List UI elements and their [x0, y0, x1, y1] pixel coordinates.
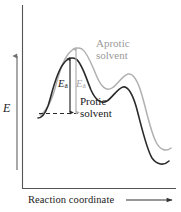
ea-protic-label: Ea [58, 78, 68, 90]
energy-diagram-figure: E Reaction coordinate Aprotic solvent Pr… [0, 0, 181, 212]
y-axis-label: E [3, 102, 10, 115]
ea-aprotic-label: Ea [76, 78, 86, 90]
ea-aprotic-subscript: a [82, 81, 85, 90]
x-axis-label: Reaction coordinate [28, 194, 114, 205]
ea-protic-subscript: a [64, 81, 67, 90]
protic-solvent-label: Protic solvent [80, 96, 112, 120]
aprotic-solvent-label: Aprotic solvent [96, 38, 130, 62]
protic-solvent-label-line2: solvent [80, 108, 112, 120]
aprotic-solvent-label-line2: solvent [96, 50, 130, 62]
